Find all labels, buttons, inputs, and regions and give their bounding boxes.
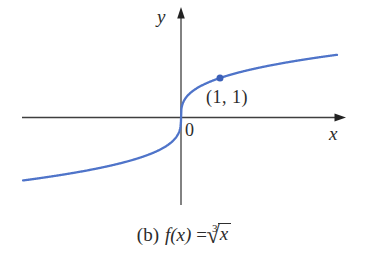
- caption-prefix: (b): [137, 224, 159, 245]
- x-axis-arrowhead-icon: [335, 114, 347, 122]
- y-axis-label: y: [157, 7, 165, 26]
- caption-function-name: f(x): [165, 224, 191, 245]
- caption-equals-sign: =: [196, 224, 207, 245]
- cube-root-function-figure: y x 0 (1, 1) (b)f(x)=3√x: [0, 0, 368, 263]
- radicand: x: [218, 223, 231, 244]
- point-label: (1, 1): [206, 88, 248, 106]
- marked-point-dot: [217, 75, 224, 82]
- cube-root-expression: 3√x: [212, 224, 231, 247]
- x-axis-label: x: [329, 124, 337, 143]
- origin-label: 0: [185, 121, 194, 139]
- y-axis-arrowhead-icon: [177, 7, 185, 19]
- root-index: 3: [212, 222, 218, 234]
- figure-caption: (b)f(x)=3√x: [0, 224, 368, 247]
